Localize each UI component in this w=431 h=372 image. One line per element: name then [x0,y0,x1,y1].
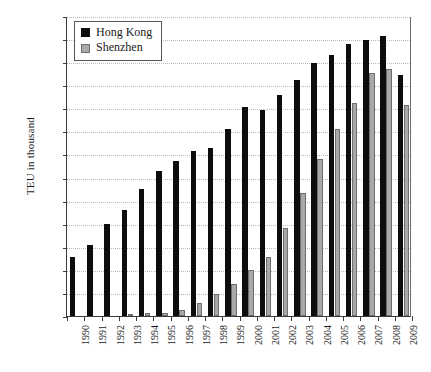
bar-hong-kong [380,36,385,316]
x-tick-mark [378,316,379,321]
legend-swatch-icon [81,44,90,53]
x-tick-mark [84,316,85,321]
bar-hong-kong [208,148,213,316]
bar-shenzhen [352,103,357,316]
bar-group [257,17,274,316]
x-tick-label: 2002 [287,325,298,345]
x-tick-label: 2001 [270,325,281,345]
plot-area: 1990199119921993199419951996199719981999… [66,17,411,317]
legend-item-sz: Shenzhen [81,40,152,55]
legend-label: Hong Kong [96,25,152,40]
x-tick-mark [395,316,396,321]
bar-hong-kong [363,40,368,316]
x-tick-mark [360,316,361,321]
x-tick-mark [412,316,413,321]
x-tick-mark [119,316,120,321]
bar-shenzhen [162,313,167,316]
bar-hong-kong [294,80,299,316]
bar-hong-kong [87,245,92,316]
x-tick-label: 2007 [373,325,384,345]
bar-group [360,17,377,316]
bar-hong-kong [139,189,144,316]
bar-group [188,17,205,316]
x-tick-label: 2000 [253,325,264,345]
bar-group [171,17,188,316]
bar-shenzhen [335,129,340,316]
bar-group [240,17,257,316]
bar-group [153,17,170,316]
bar-shenzhen [231,284,236,316]
bar-shenzhen [214,294,219,317]
bar-hong-kong [311,63,316,316]
bar-hong-kong [70,257,75,316]
x-tick-label: 2003 [304,325,315,345]
bar-hong-kong [104,224,109,316]
bar-group [291,17,308,316]
x-tick-mark [274,316,275,321]
bar-shenzhen [317,159,322,317]
bar-shenzhen [369,73,374,316]
x-tick-mark [102,316,103,321]
bar-hong-kong [225,129,230,316]
x-tick-mark [67,316,68,321]
x-tick-label: 2005 [339,325,350,345]
bar-chart: TEU in thousand 02,0004,0006,0008,00010,… [0,0,431,372]
x-tick-label: 2008 [391,325,402,345]
bar-group [136,17,153,316]
x-tick-mark [309,316,310,321]
bar-group [309,17,326,316]
bar-group [326,17,343,316]
x-tick-label: 1999 [235,325,246,345]
bar-group [102,17,119,316]
bar-group [67,17,84,316]
bar-shenzhen [248,270,253,316]
bar-shenzhen [128,314,133,316]
bar-hong-kong [122,210,127,316]
x-tick-label: 1992 [115,325,126,345]
bar-shenzhen [386,69,391,316]
bar-hong-kong [260,110,265,316]
legend-item-hk: Hong Kong [81,25,152,40]
bar-group [84,17,101,316]
legend-label: Shenzhen [96,40,143,55]
x-tick-label: 1994 [149,325,160,345]
bar-group [119,17,136,316]
bar-shenzhen [266,257,271,316]
x-tick-mark [257,316,258,321]
x-tick-label: 1990 [80,325,91,345]
bar-shenzhen [404,105,409,316]
x-tick-mark [171,316,172,321]
bar-hong-kong [242,107,247,316]
bar-hong-kong [329,55,334,316]
legend-swatch-icon [81,28,90,37]
bar-hong-kong [191,151,196,316]
bar-shenzhen [179,310,184,316]
x-tick-label: 1998 [218,325,229,345]
bar-group [205,17,222,316]
y-axis-title: TEU in thousand [24,86,36,226]
bar-shenzhen [283,228,288,316]
x-tick-mark [188,316,189,321]
bar-hong-kong [277,95,282,316]
bar-group [274,17,291,316]
bar-shenzhen [300,193,305,316]
x-tick-label: 1993 [132,325,143,345]
x-tick-mark [153,316,154,321]
bar-hong-kong [398,75,403,316]
bar-group [378,17,395,316]
x-tick-label: 2004 [322,325,333,345]
x-tick-mark [222,316,223,321]
bar-hong-kong [346,44,351,316]
bar-group [395,17,412,316]
bar-hong-kong [173,161,178,316]
x-tick-mark [291,316,292,321]
x-tick-mark [136,316,137,321]
x-tick-label: 1997 [201,325,212,345]
x-tick-label: 1995 [166,325,177,345]
bar-shenzhen [145,313,150,316]
bar-group [343,17,360,316]
x-tick-label: 1991 [97,325,108,345]
bar-hong-kong [156,171,161,316]
bar-series-container [67,17,410,316]
x-tick-mark [240,316,241,321]
